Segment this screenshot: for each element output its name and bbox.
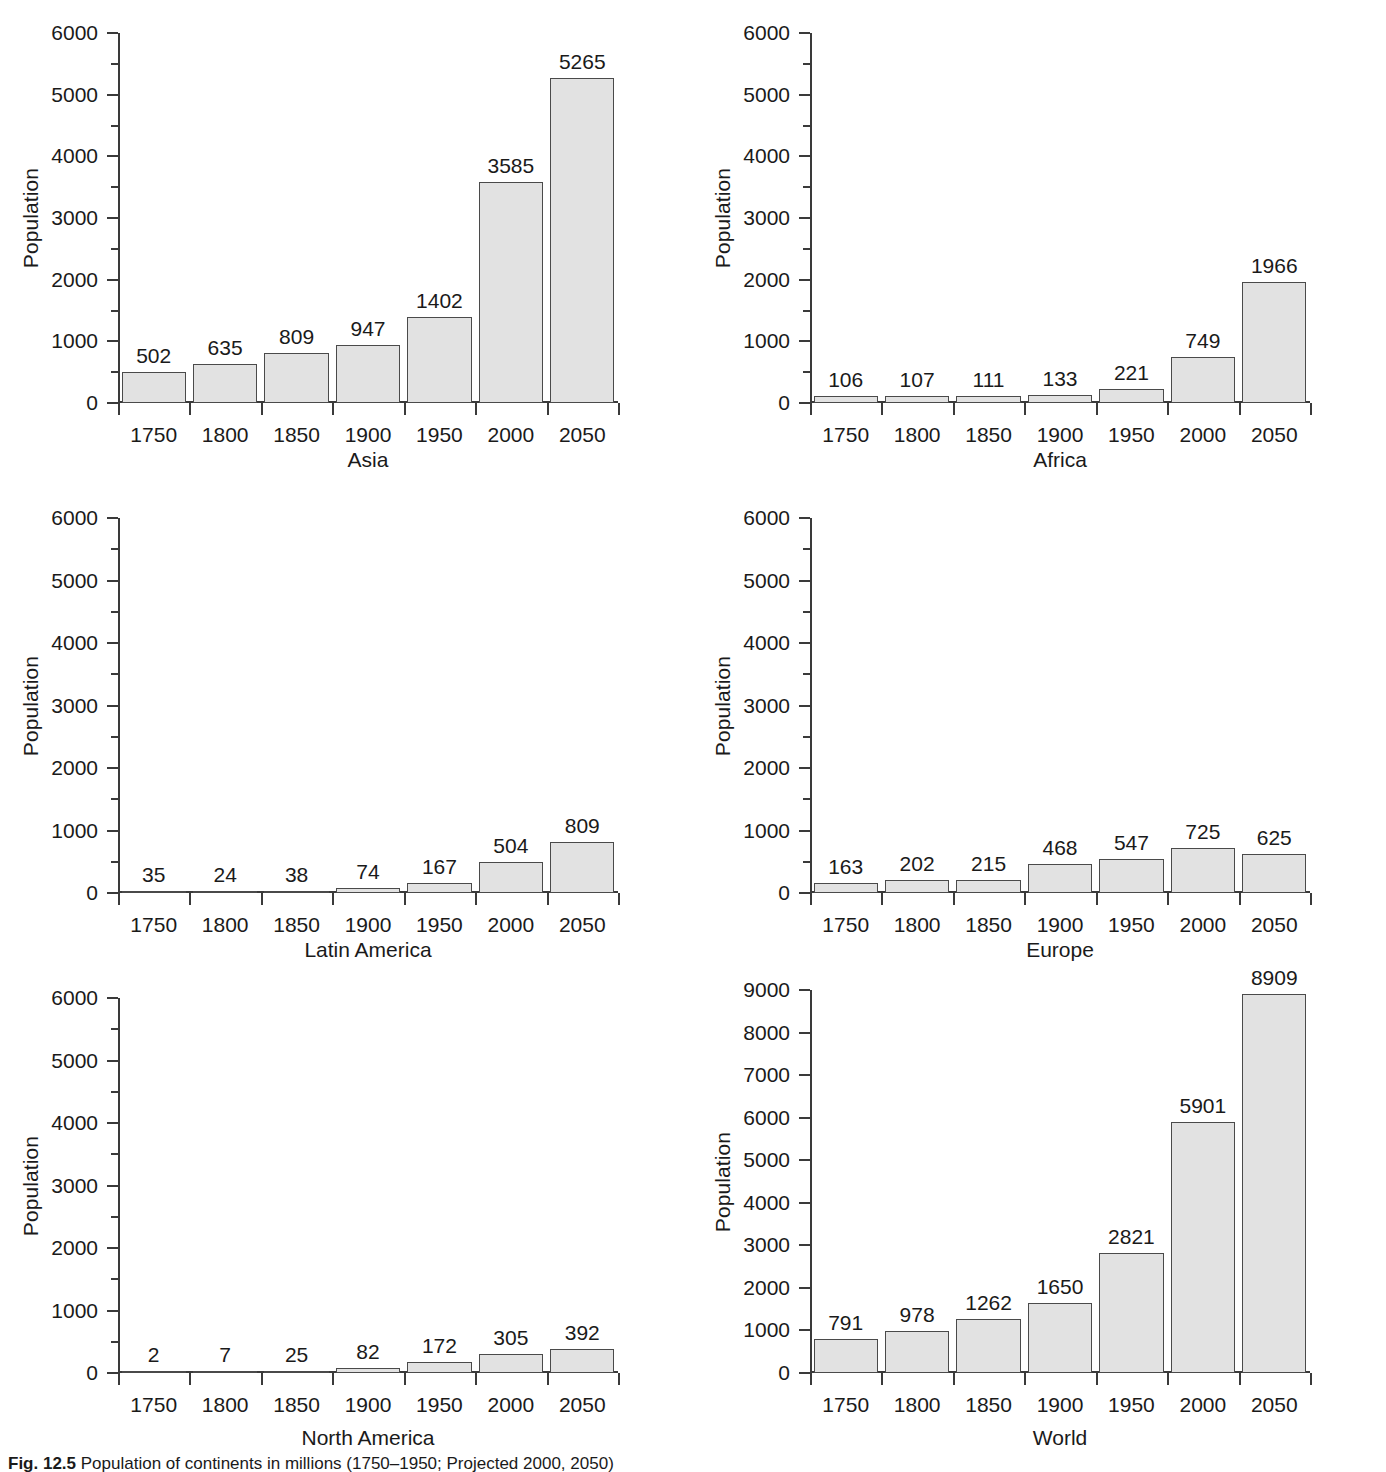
x-axis-tick-label: 2000 [1179,423,1226,447]
x-axis-tick-label: 1800 [202,423,249,447]
chart-panel-north-america: Population010002000300040005000600021750… [0,970,700,1440]
y-axis-tick: 5000 [107,580,118,582]
y-axis-tick-label: 5000 [743,1148,790,1172]
bar-value-label: 215 [971,852,1006,876]
x-axis-tick [618,403,620,415]
x-axis-tick [547,893,549,905]
bar: 1262 [956,1319,1020,1373]
x-axis-tick-label: 1900 [345,423,392,447]
y-axis-tick-label: 4000 [51,631,98,655]
x-axis-tick [1024,893,1026,905]
x-axis-tick [1167,893,1169,905]
x-axis-tick [261,403,263,415]
x-axis-tick-label: 1850 [273,913,320,937]
y-axis-title: Population [706,33,740,403]
y-axis-tick: 2000 [799,1287,810,1289]
bar-value-label: 172 [422,1334,457,1358]
x-axis-tick [953,1373,955,1385]
bar-value-label: 167 [422,855,457,879]
x-axis-tick-label: 1950 [416,913,463,937]
y-axis-tick: 0 [107,1372,118,1374]
bar-value-label: 1402 [416,289,463,313]
y-axis-title: Population [706,990,740,1373]
bar: 749 [1171,357,1235,403]
x-axis-tick-label: 1750 [822,423,869,447]
x-axis-tick [475,403,477,415]
x-axis-tick-label: 1850 [965,423,1012,447]
chart-panel-europe: Population010002000300040005000600016317… [700,480,1386,970]
y-axis-tick: 5000 [799,580,810,582]
y-axis-tick: 6000 [107,997,118,999]
y-axis-line [810,990,812,1373]
y-axis-tick: 0 [799,892,810,894]
bar-value-label: 163 [828,855,863,879]
x-axis-tick-label: 1800 [894,1393,941,1417]
bar: 133 [1028,395,1092,403]
y-axis-tick-label: 2000 [51,756,98,780]
x-axis-tick [404,403,406,415]
x-axis-tick-label: 1800 [202,913,249,937]
bar: 3585 [479,182,543,403]
y-axis-tick: 6000 [107,32,118,34]
y-axis-tick: 6000 [799,32,810,34]
bar: 978 [885,1331,949,1373]
bar: 106 [814,396,878,403]
y-axis-tick-label: 2000 [743,1276,790,1300]
y-axis-line [118,998,120,1373]
bar: 635 [193,364,257,403]
bar: 1650 [1028,1303,1092,1373]
x-axis-tick-label: 1750 [130,913,177,937]
bar: 215 [956,880,1020,893]
y-axis-tick-label: 5000 [51,1049,98,1073]
x-axis-tick [1310,893,1312,905]
bar: 202 [885,880,949,893]
x-axis-tick-label: 1900 [1037,423,1084,447]
y-axis-tick: 1000 [799,1329,810,1331]
y-axis-tick-label: 2000 [51,1236,98,1260]
y-axis-line [118,33,120,403]
y-axis-tick: 4000 [799,1202,810,1204]
population-figure: Population010002000300040005000600050217… [0,0,1386,1472]
x-axis-tick-label: 1900 [1037,1393,1084,1417]
bar: 111 [956,396,1020,403]
bar: 625 [1242,854,1306,893]
x-axis-tick [189,1373,191,1385]
x-axis-tick [118,1373,120,1385]
y-axis-minor-tick [803,736,810,738]
y-axis-minor-tick [111,63,118,65]
y-axis-tick-label: 3000 [51,206,98,230]
bar-value-label: 24 [213,863,236,887]
bar: 1402 [407,317,471,403]
bar: 172 [407,1362,471,1373]
x-axis-tick-label: 1850 [965,1393,1012,1417]
bar: 5265 [550,78,614,403]
x-axis-tick-label: 1850 [965,913,1012,937]
bar: 947 [336,345,400,403]
y-axis-title-text: Population [711,655,735,755]
y-axis-tick-label: 3000 [743,1233,790,1257]
x-axis-tick-label: 1850 [273,1393,320,1417]
x-axis-tick-label: 2000 [1179,913,1226,937]
x-axis-tick-label: 2050 [1251,913,1298,937]
y-axis-minor-tick [803,798,810,800]
y-axis-minor-tick [803,248,810,250]
y-axis-tick-label: 3000 [743,694,790,718]
x-axis-tick [810,1373,812,1385]
x-axis-tick [953,893,955,905]
y-axis-tick: 2000 [107,1247,118,1249]
x-axis-tick [1167,403,1169,415]
x-axis-tick [1024,1373,1026,1385]
y-axis-title: Population [706,518,740,893]
y-axis-tick-label: 4000 [51,144,98,168]
x-axis-tick-label: 1750 [822,913,869,937]
panel-title: World [1033,1426,1087,1450]
bar-value-label: 202 [900,852,935,876]
bar-value-label: 1262 [965,1291,1012,1315]
bar-value-label: 809 [279,325,314,349]
y-axis-tick: 6000 [107,517,118,519]
x-axis-tick-label: 1900 [345,1393,392,1417]
y-axis-tick: 3000 [799,1244,810,1246]
x-axis-tick-label: 2050 [559,423,606,447]
y-axis-minor-tick [803,63,810,65]
y-axis-title: Population [14,33,48,403]
